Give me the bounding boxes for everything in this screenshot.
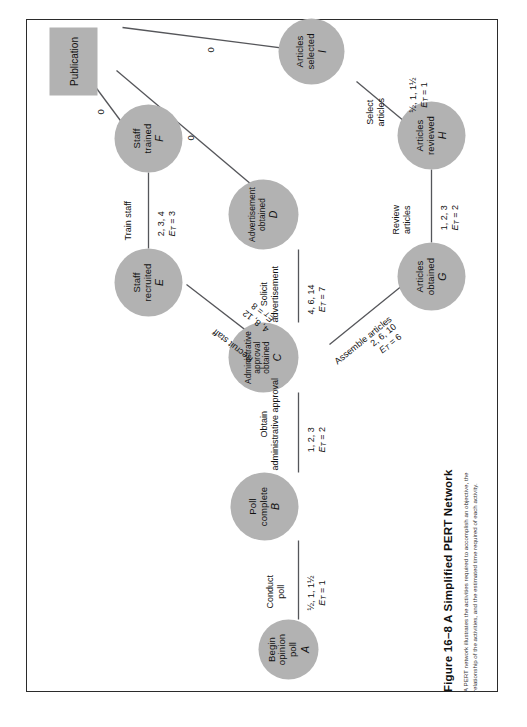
- node-b-letter: B: [269, 486, 281, 525]
- node-d-label: Advertisement obtained D: [247, 187, 279, 242]
- edge-label-c-d-line1: Solicit: [258, 265, 269, 322]
- node-e-label: Staff recruited E: [131, 263, 165, 301]
- edge-label-g-h: Review articles: [390, 204, 411, 234]
- edge-time-b-c-estimates: 1, 2, 3: [305, 426, 316, 452]
- pert-network-canvas: Begin opinion poll A Poll complete B Adm…: [26, 19, 498, 692]
- edge-time-h-i: ½, 1, 1½ ET = 1: [407, 77, 429, 112]
- edge-label-h-i: Select articles: [364, 97, 385, 126]
- node-e-line1: Staff: [130, 272, 141, 292]
- edge-label-g-h-line1: Review: [390, 204, 401, 234]
- edge-label-i-publication-zero: 0: [204, 47, 215, 52]
- edge-time-e-f-et: ET = 3: [166, 210, 177, 236]
- node-i-letter: I: [316, 33, 328, 69]
- node-g-letter: G: [436, 257, 448, 294]
- node-d[interactable]: Advertisement obtained D: [228, 179, 298, 249]
- node-publication[interactable]: Publication: [49, 27, 97, 95]
- edge-label-c-d: Solicit advertisement: [258, 265, 279, 322]
- edge-time-h-i-et: ET = 1: [418, 77, 429, 112]
- node-c-line3: obtained: [261, 341, 270, 373]
- edge-label-e-f: Train staff: [122, 200, 133, 240]
- node-a-label: Begin opinion poll A: [266, 633, 311, 664]
- figure-caption-text: A PERT network illustrates the activitie…: [461, 456, 480, 692]
- figure-caption-title: Figure 16–8 A Simplified PERT Network: [442, 432, 454, 692]
- node-b-line2: complete: [257, 486, 268, 525]
- node-g[interactable]: Articles obtained G: [397, 242, 465, 310]
- edge-label-d-publication-zero: 0: [184, 135, 195, 140]
- edge-label-f-publication-zero: 0: [94, 109, 105, 114]
- node-h-line2: reviewed: [424, 116, 435, 155]
- node-g-label: Articles obtained G: [414, 257, 448, 294]
- edge-label-g-h-line2: articles: [401, 204, 412, 234]
- edge-time-c-d: 4, 6, 14 ET = 7: [305, 284, 327, 314]
- edge-time-b-c: 1, 2, 3 ET = 2: [305, 426, 327, 452]
- node-c-letter: C: [271, 331, 283, 384]
- edge-label-e-f-line1: Train staff: [122, 200, 133, 240]
- node-a-line1: Begin: [265, 637, 276, 662]
- node-a-line2: opinion: [275, 633, 286, 664]
- node-e[interactable]: Staff recruited E: [114, 248, 182, 316]
- edge-time-g-h-estimates: 1, 2, 3: [438, 204, 449, 230]
- edge-label-a-b-line1: Conduct: [264, 574, 275, 608]
- node-a-line3: poll: [286, 641, 297, 656]
- node-b-label: Poll complete B: [247, 486, 281, 525]
- node-d-line2: obtained: [256, 198, 266, 231]
- edge-label-h-i-line2: articles: [375, 97, 386, 126]
- edge-time-a-b-et: ET = 1: [316, 575, 327, 610]
- node-a-letter: A: [299, 633, 311, 664]
- edge-time-g-h-et: ET = 2: [449, 204, 460, 230]
- node-f-line1: Staff: [130, 128, 141, 148]
- edge-time-c-d-et: ET = 7: [316, 284, 327, 314]
- edge-time-a-b-estimates: ½, 1, 1½: [305, 575, 316, 610]
- edge-time-c-d-estimates: 4, 6, 14: [305, 284, 316, 314]
- node-e-letter: E: [153, 263, 165, 301]
- node-b-line1: Poll: [246, 498, 257, 514]
- edge-label-a-b-line2: poll: [275, 574, 286, 608]
- edge-label-a-b: Conduct poll: [264, 574, 285, 608]
- edge-time-e-f: 2, 3, 4 ET = 3: [155, 210, 177, 236]
- node-i-line2: selected: [304, 33, 315, 69]
- node-i-label: Articles selected I: [294, 33, 328, 69]
- node-g-line1: Articles: [413, 260, 424, 292]
- node-h-line1: Articles: [413, 119, 424, 151]
- edge-label-b-c: Obtain administrative approval: [258, 377, 279, 470]
- node-f[interactable]: Staff trained F: [114, 104, 182, 172]
- edge-label-c-d-line2: advertisement: [269, 265, 280, 322]
- node-f-label: Staff trained F: [131, 123, 165, 153]
- node-h-label: Articles reviewed H: [414, 116, 448, 155]
- edge-label-b-c-line1: Obtain: [258, 377, 269, 470]
- node-g-line2: obtained: [424, 257, 435, 294]
- edge-label-h-i-line1: Select: [364, 97, 375, 126]
- node-d-letter: D: [267, 187, 279, 242]
- node-f-line2: trained: [141, 123, 152, 153]
- rotated-figure-stage: Begin opinion poll A Poll complete B Adm…: [26, 19, 498, 692]
- figure-caption-block: Figure 16–8 A Simplified PERT Network A …: [442, 432, 480, 692]
- node-b[interactable]: Poll complete B: [230, 472, 298, 540]
- node-f-letter: F: [153, 123, 165, 153]
- node-i[interactable]: Articles selected I: [278, 18, 344, 84]
- figure-page-frame: Begin opinion poll A Poll complete B Adm…: [26, 19, 498, 692]
- node-a[interactable]: Begin opinion poll A: [258, 619, 318, 679]
- node-e-line2: recruited: [141, 263, 152, 301]
- edge-time-a-b: ½, 1, 1½ ET = 1: [305, 575, 327, 610]
- edge-label-b-c-line2: administrative approval: [269, 377, 280, 470]
- node-i-line1: Articles: [293, 35, 304, 67]
- edge-time-g-h: 1, 2, 3 ET = 2: [438, 204, 460, 230]
- node-d-line1: Advertisement: [246, 187, 256, 242]
- edge-time-e-f-estimates: 2, 3, 4: [155, 210, 166, 236]
- edge-time-h-i-estimates: ½, 1, 1½: [407, 77, 418, 112]
- node-h-letter: H: [436, 116, 448, 155]
- node-publication-label: Publication: [68, 37, 79, 86]
- edge-time-b-c-et: ET = 2: [316, 426, 327, 452]
